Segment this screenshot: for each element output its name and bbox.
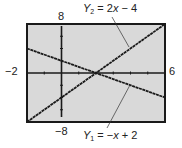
y1-equals: = − <box>94 129 113 141</box>
xmin-label: −2 <box>5 66 18 77</box>
graphing-calculator-figure: 8 −8 −2 6 Y2 = 2x − 4 Y1 = −x + 2 <box>0 0 182 148</box>
y1-constant: + 2 <box>119 129 138 141</box>
ymin-label: −8 <box>55 126 68 137</box>
y2-equals: = 2 <box>94 2 113 14</box>
plot-area <box>0 0 182 148</box>
y1-equation-label: Y1 = −x + 2 <box>83 130 137 144</box>
y2-equation-label: Y2 = 2x − 4 <box>83 3 137 17</box>
xmax-label: 6 <box>169 66 175 77</box>
y2-constant: − 4 <box>118 2 137 14</box>
ymax-label: 8 <box>58 11 64 22</box>
